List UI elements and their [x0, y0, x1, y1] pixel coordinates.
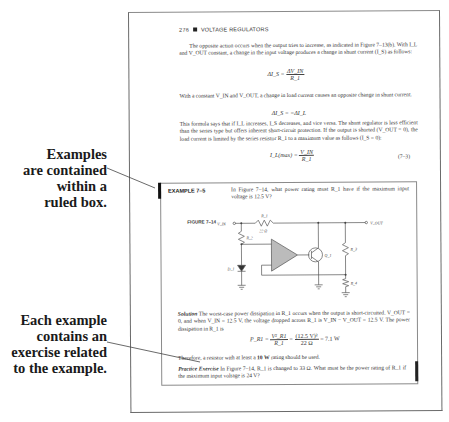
- callout-pointers: [0, 0, 449, 422]
- pointer-line-examples: [107, 168, 155, 188]
- pointer-line-exercise: [107, 342, 200, 362]
